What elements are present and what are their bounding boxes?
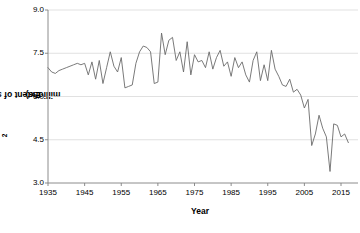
sea-ice-extent-line [48, 33, 348, 171]
sea-ice-extent-chart: Extent of sea ice (km2millions) 3.04.56.… [0, 0, 360, 233]
plot-area [0, 0, 360, 233]
axis-ticks [45, 10, 341, 186]
x-axis-title: Year [48, 206, 352, 216]
